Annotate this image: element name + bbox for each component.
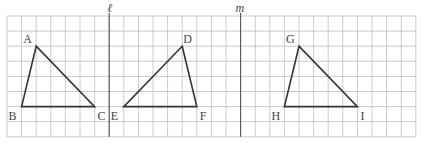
vertex-label-e: E — [111, 109, 118, 123]
symmetry-axes: ℓm — [107, 1, 244, 137]
vertex-label-f: F — [200, 109, 207, 123]
vertex-label-d: D — [183, 32, 192, 46]
vertex-label-a: A — [23, 32, 32, 46]
axis-label-l: ℓ — [107, 1, 112, 15]
symmetry-grid-figure: ℓm ABCDEFGHI — [0, 0, 421, 144]
vertex-label-g: G — [286, 32, 295, 46]
triangles: ABCDEFGHI — [9, 32, 365, 122]
vertex-label-h: H — [271, 109, 280, 123]
vertex-label-c: C — [98, 109, 106, 123]
vertex-label-i: I — [360, 109, 364, 123]
vertex-label-b: B — [9, 109, 17, 123]
axis-label-m: m — [236, 1, 245, 15]
grid-lines — [7, 16, 416, 137]
